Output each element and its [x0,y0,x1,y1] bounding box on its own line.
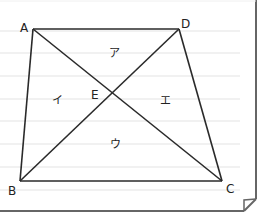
side-DC [179,29,222,181]
region-label-top: ア [109,47,120,60]
intersection-label-e: E [91,88,99,102]
vertex-label-b: B [8,184,16,198]
vertex-label-d: D [181,17,190,31]
quadrilateral-ABCD [20,29,222,181]
diagonal-DB [20,29,179,181]
notepaper-diagram: A D B C E ア イ ウ エ [0,0,269,221]
vertex-label-c: C [226,182,234,196]
region-label-bottom: ウ [110,138,121,151]
region-label-right: エ [160,94,171,107]
side-BA [20,29,33,181]
vertex-label-a: A [20,21,29,35]
diagram-canvas: A D B C E ア イ ウ エ [0,0,269,221]
region-label-left: イ [52,94,63,107]
